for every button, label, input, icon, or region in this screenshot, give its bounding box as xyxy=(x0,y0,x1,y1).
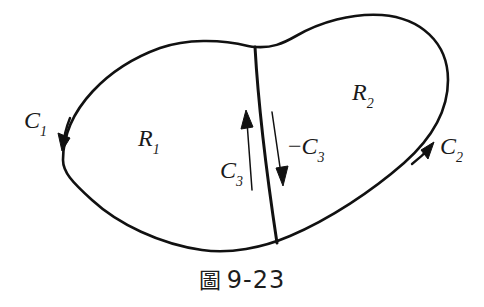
label-negative-c3-base: C xyxy=(302,133,318,159)
c1-arrow xyxy=(58,118,70,151)
label-c3-subscript: 3 xyxy=(236,174,243,189)
figure-caption-number: 9-23 xyxy=(227,266,285,294)
label-c1: C1 xyxy=(24,108,47,135)
label-c2-base: C xyxy=(440,133,456,159)
label-r2: R2 xyxy=(352,80,374,107)
neg-c3-down-arrow xyxy=(272,112,288,186)
label-r2-base: R xyxy=(352,79,367,105)
dividing-curve-path xyxy=(255,47,277,243)
label-c1-subscript: 1 xyxy=(40,124,47,139)
label-r1-base: R xyxy=(138,125,153,151)
label-c3-base: C xyxy=(220,157,236,183)
label-r2-subscript: 2 xyxy=(367,96,374,111)
label-negative-c3-subscript: 3 xyxy=(318,150,325,165)
figure-drawing xyxy=(0,0,484,307)
label-c2: C2 xyxy=(440,134,463,161)
label-r1-subscript: 1 xyxy=(153,142,160,157)
figure-container: C1 C2 R1 R2 C3 −C3 圖9-23 xyxy=(0,0,484,307)
figure-caption: 圖9-23 xyxy=(0,262,484,294)
label-c2-subscript: 2 xyxy=(456,150,463,165)
label-c1-base: C xyxy=(24,107,40,133)
label-negative-c3-sign: − xyxy=(288,133,302,159)
figure-caption-cjk: 圖 xyxy=(199,268,222,293)
label-r1: R1 xyxy=(138,126,160,153)
label-negative-c3: −C3 xyxy=(288,134,325,161)
label-c3: C3 xyxy=(220,158,243,185)
